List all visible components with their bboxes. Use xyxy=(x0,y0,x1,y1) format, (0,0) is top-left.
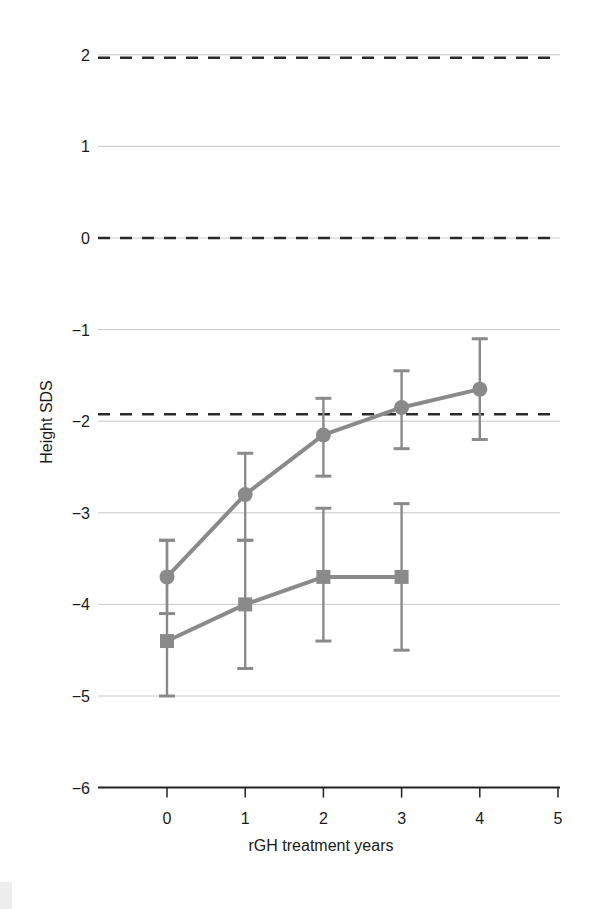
x-tick-label: 5 xyxy=(554,810,563,827)
data-series xyxy=(159,339,488,696)
y-tick-label: −1 xyxy=(72,322,90,339)
y-tick-label: 2 xyxy=(81,47,90,64)
x-tick-label: 3 xyxy=(397,810,406,827)
square-marker xyxy=(160,634,174,648)
series-line xyxy=(167,577,402,641)
y-tick-label: 1 xyxy=(81,138,90,155)
square-series xyxy=(159,504,410,696)
y-tick-label: −4 xyxy=(72,596,90,613)
x-tick-label: 2 xyxy=(319,810,328,827)
square-marker xyxy=(238,597,252,611)
y-tick-label: −5 xyxy=(72,688,90,705)
y-tick-label: −2 xyxy=(72,413,90,430)
y-axis-title: Height SDS xyxy=(38,380,55,464)
circle-marker xyxy=(316,427,331,442)
y-axis-tick-labels: 210−1−2−3−4−5−6 xyxy=(72,47,90,797)
height-sds-chart: 210−1−2−3−4−5−6 012345 rGH treatment yea… xyxy=(0,0,596,909)
square-marker xyxy=(395,570,409,584)
circle-marker xyxy=(472,382,487,397)
x-tick-label: 1 xyxy=(241,810,250,827)
y-tick-label: −6 xyxy=(72,780,90,797)
x-tick-label: 0 xyxy=(163,810,172,827)
circle-marker xyxy=(394,400,409,415)
x-axis-title: rGH treatment years xyxy=(249,837,394,854)
x-axis-tick-labels: 012345 xyxy=(163,810,563,827)
reference-lines xyxy=(98,58,560,414)
y-tick-label: −3 xyxy=(72,505,90,522)
x-axis xyxy=(98,788,560,798)
y-tick-label: 0 xyxy=(81,230,90,247)
square-marker xyxy=(316,570,330,584)
x-tick-label: 4 xyxy=(475,810,484,827)
circle-marker xyxy=(238,487,253,502)
